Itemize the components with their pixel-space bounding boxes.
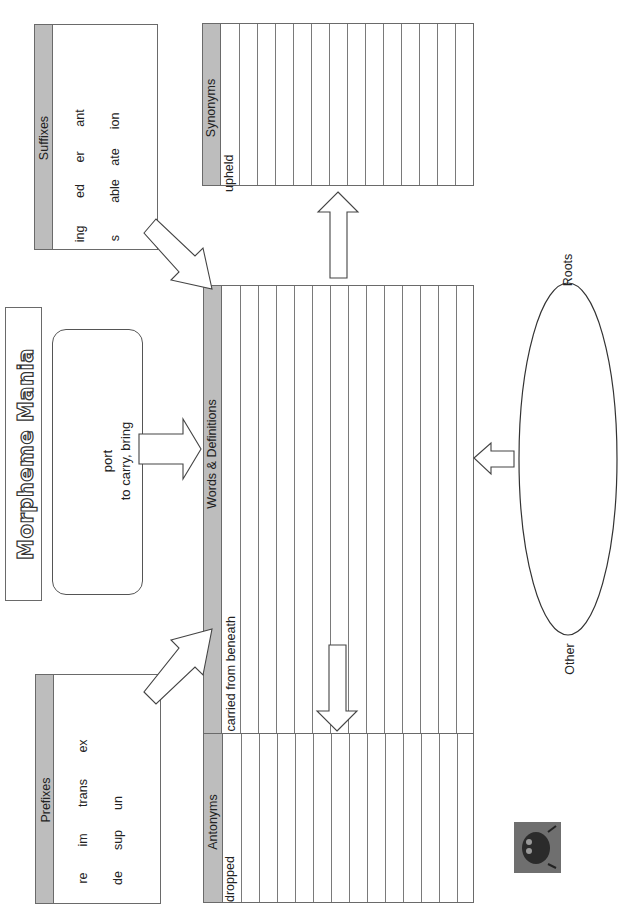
arrow-right-icon bbox=[139, 419, 201, 479]
arrow-diagonal-icon bbox=[144, 219, 212, 289]
arrow-down-icon bbox=[317, 645, 357, 731]
mascot-image bbox=[514, 822, 561, 873]
arrow-left-icon bbox=[474, 443, 514, 474]
arrow-up-icon bbox=[318, 192, 358, 278]
arrow-diagonal-icon bbox=[144, 629, 212, 704]
bug-icon bbox=[514, 822, 561, 873]
